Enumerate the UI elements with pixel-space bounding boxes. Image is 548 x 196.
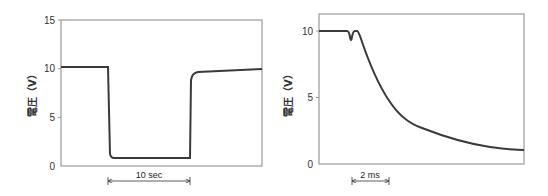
- right-ytick-5: 5: [307, 92, 313, 103]
- right-y-axis-label: 電圧（V）: [282, 69, 294, 117]
- figure: 15 10 5 0 電圧（V） 10 sec 10 5 0 電圧（V） 2 ms: [0, 0, 548, 196]
- left-ytick-0: 0: [49, 161, 55, 172]
- left-chart: 15 10 5 0 電圧（V） 10 sec: [26, 15, 262, 185]
- left-ytick-10: 10: [44, 63, 56, 74]
- left-voltage-line: [61, 67, 262, 158]
- left-ytick-5: 5: [49, 112, 55, 123]
- left-y-axis-label: 電圧（V）: [26, 69, 38, 117]
- right-chart: 10 5 0 電圧（V） 2 ms: [282, 14, 524, 185]
- right-voltage-line: [319, 31, 524, 150]
- left-plot-frame: [61, 20, 262, 166]
- right-ytick-10: 10: [302, 26, 314, 37]
- right-ytick-0: 0: [307, 159, 313, 170]
- right-dimension-label: 2 ms: [360, 170, 380, 180]
- left-ytick-15: 15: [44, 15, 56, 26]
- left-dimension-label: 10 sec: [136, 170, 163, 180]
